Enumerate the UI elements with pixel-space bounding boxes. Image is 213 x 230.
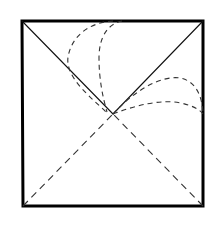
geometric-figure-svg xyxy=(0,0,213,230)
figure-background xyxy=(0,0,213,230)
figure-canvas xyxy=(0,0,213,230)
